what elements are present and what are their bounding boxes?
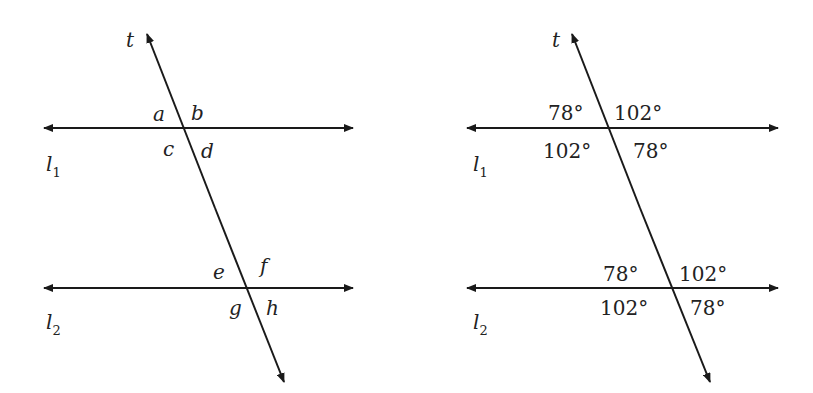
angle-h: h	[266, 298, 279, 318]
angle-102-top-right: 102°	[614, 103, 662, 123]
angle-d: d	[201, 141, 214, 161]
angle-78-bottom-left: 78°	[603, 264, 638, 284]
label-l1: l1	[46, 154, 61, 179]
parallel-lines-diagram	[0, 0, 813, 393]
angle-c: c	[163, 139, 174, 159]
angle-78-bottom-bottomright: 78°	[690, 298, 725, 318]
angle-b: b	[191, 103, 204, 123]
label-l2: l2	[473, 312, 488, 337]
angle-102-bottom-right: 102°	[679, 264, 727, 284]
angle-102-bottom-bottomleft: 102°	[600, 298, 648, 318]
angle-a: a	[153, 104, 165, 124]
label-l2: l2	[46, 312, 61, 337]
angle-f: f	[260, 256, 267, 276]
label-t: t	[126, 30, 134, 50]
angle-78-top-left: 78°	[548, 103, 583, 123]
angle-78-top-bottomright: 78°	[633, 141, 668, 161]
angle-g: g	[229, 298, 242, 318]
angle-e: e	[213, 262, 225, 282]
angle-102-top-bottomleft: 102°	[543, 141, 591, 161]
label-t: t	[552, 30, 560, 50]
label-l1: l1	[473, 154, 488, 179]
